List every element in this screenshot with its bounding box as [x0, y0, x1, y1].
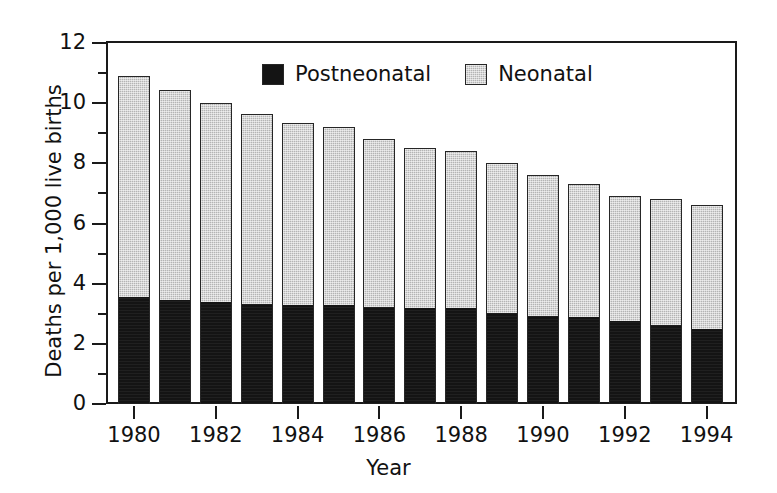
bar-segment-postneonatal — [445, 308, 477, 404]
y-axis-tick-label: 2 — [73, 333, 86, 354]
x-axis-tick — [215, 406, 217, 419]
bar-segment-neonatal — [323, 127, 355, 306]
infant-mortality-chart: Deaths per 1,000 live births 024681012 1… — [0, 0, 777, 493]
y-axis-tick-label: 4 — [73, 273, 86, 294]
bar-segment-neonatal — [282, 123, 314, 305]
y-axis-tick-label: 6 — [73, 213, 86, 234]
bar-segment-postneonatal — [691, 329, 723, 404]
x-axis-tick-label: 1992 — [585, 423, 665, 447]
x-axis-tick-label: 1990 — [503, 423, 583, 447]
y-axis-tick-major — [92, 343, 106, 345]
x-axis-tick-label: 1988 — [421, 423, 501, 447]
y-axis-tick-major — [92, 42, 106, 44]
bar-segment-postneonatal — [404, 308, 436, 404]
bar-group — [200, 103, 232, 404]
x-axis-tick-label: 1986 — [339, 423, 419, 447]
legend-item: Postneonatal — [262, 62, 431, 86]
bar-segment-neonatal — [404, 148, 436, 308]
chart-legend: PostneonatalNeonatal — [262, 62, 593, 86]
x-axis-tick-label: 1984 — [258, 423, 338, 447]
y-axis-tick-label: 10 — [59, 92, 86, 113]
bars-layer — [108, 43, 735, 404]
x-axis-tick — [297, 406, 299, 419]
bar-group — [445, 151, 477, 404]
bar-segment-postneonatal — [486, 313, 518, 404]
bar-group — [241, 114, 273, 404]
bar-group — [404, 148, 436, 404]
x-axis-tick-label: 1994 — [667, 423, 747, 447]
bar-segment-postneonatal — [527, 316, 559, 404]
bar-segment-neonatal — [200, 103, 232, 302]
bar-segment-postneonatal — [568, 317, 600, 404]
y-axis-tick-label: 12 — [59, 32, 86, 53]
bar-segment-neonatal — [609, 196, 641, 322]
bar-segment-neonatal — [159, 90, 191, 299]
bar-segment-neonatal — [650, 199, 682, 325]
bar-group — [159, 90, 191, 404]
bar-segment-neonatal — [363, 139, 395, 308]
bar-group — [568, 184, 600, 404]
x-axis-tick-label: 1982 — [176, 423, 256, 447]
x-axis-title: Year — [0, 456, 777, 480]
bar-segment-neonatal — [118, 76, 150, 297]
y-axis-tick-minor — [98, 313, 106, 315]
bar-group — [650, 199, 682, 404]
bar-segment-neonatal — [527, 175, 559, 316]
y-axis-tick-label: 0 — [73, 393, 86, 414]
bar-segment-neonatal — [445, 151, 477, 309]
bar-segment-neonatal — [486, 163, 518, 313]
gray-square-swatch — [465, 64, 487, 85]
bar-group — [118, 76, 150, 404]
x-axis-tick-label: 1980 — [94, 423, 174, 447]
y-axis-tick-major — [92, 162, 106, 164]
legend-item: Neonatal — [465, 62, 593, 86]
y-axis-tick-minor — [98, 373, 106, 375]
bar-segment-postneonatal — [363, 307, 395, 404]
bar-group — [609, 196, 641, 404]
bar-segment-neonatal — [568, 184, 600, 317]
bar-segment-postneonatal — [323, 305, 355, 404]
y-axis-tick-major — [92, 102, 106, 104]
x-axis-tick — [624, 406, 626, 419]
y-axis-tick-major — [92, 403, 106, 405]
x-axis-tick — [706, 406, 708, 419]
bar-segment-neonatal — [241, 114, 273, 304]
bar-segment-postneonatal — [241, 304, 273, 404]
bar-group — [282, 123, 314, 404]
x-axis-tick — [378, 406, 380, 419]
bar-segment-postneonatal — [650, 325, 682, 404]
bar-segment-postneonatal — [159, 300, 191, 404]
y-axis-tick-major — [92, 223, 106, 225]
y-axis-tick-minor — [98, 132, 106, 134]
bar-group — [363, 139, 395, 404]
bar-segment-postneonatal — [282, 305, 314, 404]
bar-group — [323, 127, 355, 404]
x-axis-tick — [542, 406, 544, 419]
y-axis-tick-major — [92, 283, 106, 285]
black-square-swatch — [262, 64, 284, 85]
x-axis-tick — [460, 406, 462, 419]
bar-segment-postneonatal — [609, 321, 641, 404]
bar-segment-neonatal — [691, 205, 723, 330]
legend-label: Postneonatal — [295, 62, 431, 86]
y-axis-tick-label: 8 — [73, 152, 86, 173]
x-axis-tick — [133, 406, 135, 419]
legend-label: Neonatal — [498, 62, 593, 86]
bar-group — [527, 175, 559, 404]
y-axis-tick-minor — [98, 192, 106, 194]
y-axis-tick-minor — [98, 72, 106, 74]
bar-segment-postneonatal — [200, 302, 232, 404]
bar-segment-postneonatal — [118, 297, 150, 404]
bar-group — [486, 163, 518, 404]
bar-group — [691, 205, 723, 404]
y-axis-tick-minor — [98, 253, 106, 255]
